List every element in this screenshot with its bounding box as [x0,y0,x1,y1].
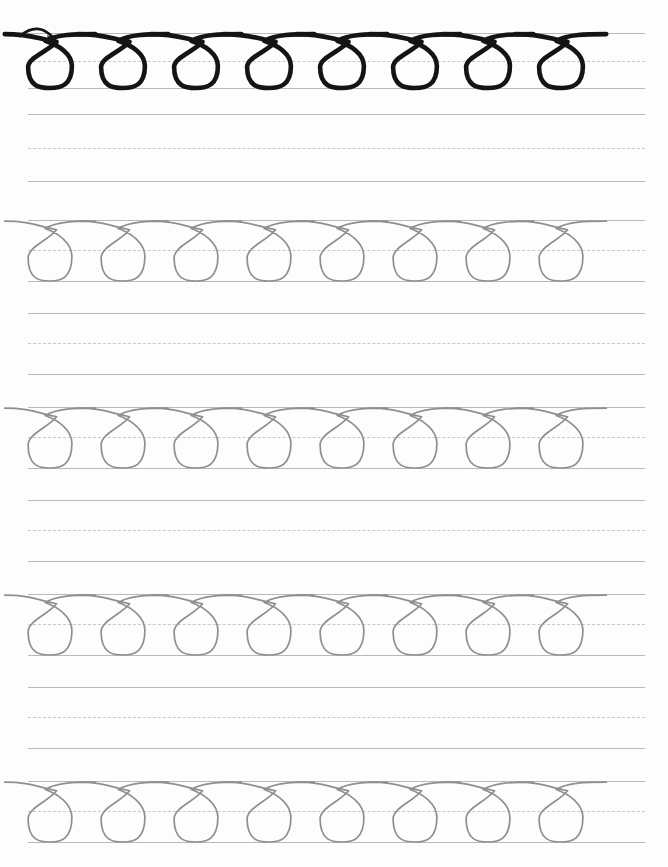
loop-stroke [5,782,96,842]
loop-stroke [297,782,388,842]
loop-stroke [370,782,461,842]
worksheet-page [0,0,668,867]
loop-stroke [151,782,242,842]
loop-stroke [443,782,534,842]
loop-stroke [516,782,607,842]
loop-stroke [224,782,315,842]
trace-loop-glyphs [0,0,668,867]
loop-stroke [78,782,169,842]
